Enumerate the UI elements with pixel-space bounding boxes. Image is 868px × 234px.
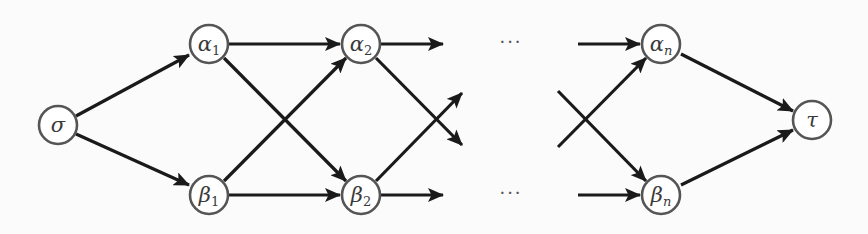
node-label-sigma: σ [51, 113, 66, 137]
node-beta2: β2 [342, 176, 380, 214]
node-alpha2: α2 [342, 25, 380, 63]
edge-alpha2-cross-stub [376, 58, 462, 145]
edge-beta2-cross-stub [376, 93, 462, 181]
node-alphan: αn [642, 25, 680, 63]
diagram-canvas: ··· ··· σ α1 β1 α2 β2 αn [0, 0, 868, 234]
edge-sigma-beta1 [76, 134, 189, 185]
node-tau: τ [793, 101, 831, 139]
node-alpha1: α1 [190, 25, 228, 63]
ellipsis-bottom: ··· [499, 182, 522, 203]
edge-betan-tau [681, 130, 793, 185]
node-label-tau: τ [806, 108, 818, 132]
ellipsis-top: ··· [499, 31, 522, 52]
node-betan: βn [642, 176, 680, 214]
edges [76, 44, 793, 195]
edge-alphan-tau [681, 54, 793, 111]
node-sigma: σ [39, 106, 77, 144]
node-beta1: β1 [190, 176, 228, 214]
edge-sigma-alpha1 [76, 55, 189, 116]
